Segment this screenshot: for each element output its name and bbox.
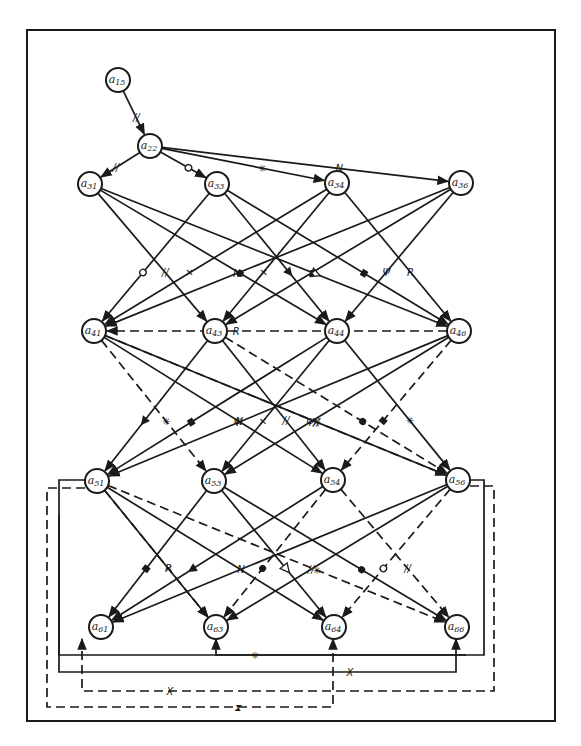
svg-text:✕: ✕ [259, 416, 267, 427]
svg-text://: // [111, 162, 120, 173]
svg-text:Ψ: Ψ [382, 267, 391, 278]
edge-mark [357, 565, 367, 575]
svg-text:N: N [233, 268, 241, 279]
node-a44[interactable]: a44 [325, 319, 349, 343]
node-a61[interactable]: a61 [89, 615, 113, 639]
node-a31[interactable]: a31 [78, 172, 102, 196]
edge-a46-a53 [225, 337, 449, 474]
edge-mark: ✳ [400, 411, 419, 430]
edge-mark: // [398, 558, 418, 578]
node-a41[interactable]: a41 [82, 319, 106, 343]
graph-diagram: ////✳N//✕✕RN⧗ΨN//✳X//✕✳RΨΨRN✳✕////✳XX⧗ a… [0, 0, 581, 746]
loop-edge-mark: ✳ [251, 650, 259, 661]
edge-a43-a54 [222, 340, 324, 469]
loop-edge-mark: X [166, 686, 175, 697]
svg-text:⧗: ⧗ [308, 267, 316, 278]
loop-a56-a61-dashed [82, 486, 494, 691]
edge-mark: ✕ [180, 264, 198, 282]
svg-text:✳: ✳ [162, 416, 170, 427]
svg-text:✳: ✳ [258, 163, 266, 174]
svg-text:✕: ✕ [164, 563, 172, 574]
node-a22[interactable]: a22 [138, 134, 162, 158]
edge-mark [185, 563, 197, 575]
edge-mark [184, 163, 193, 172]
edge-a53-a64 [222, 490, 326, 617]
node-a64[interactable]: a64 [322, 615, 346, 639]
edge-a56-a64 [342, 489, 450, 617]
svg-text:✕: ✕ [185, 267, 193, 278]
loop-a51-a66-solid [59, 515, 456, 672]
svg-text:✳: ✳ [406, 415, 414, 426]
svg-text:N: N [237, 564, 245, 575]
loop-a51-a64-dashed [47, 488, 333, 707]
edge-a44-a51 [108, 337, 327, 474]
edge-mark: // [128, 109, 146, 127]
edge-mark: ✳ [256, 161, 269, 175]
loop-a56-bottom-solid [59, 480, 484, 655]
edge-mark: R [233, 326, 240, 337]
node-a63[interactable]: a63 [204, 615, 228, 639]
node-a53[interactable]: a53 [202, 469, 226, 493]
edge-mark: ✕ [159, 559, 178, 578]
edge-a31-a43 [98, 193, 207, 321]
edge-mark: // [106, 158, 125, 177]
svg-text:R: R [233, 326, 240, 337]
node-a34[interactable]: a34 [325, 171, 349, 195]
node-a56[interactable]: a56 [446, 468, 470, 492]
svg-text:Ψ: Ψ [234, 417, 243, 428]
edge-mark [360, 269, 369, 278]
node-a43[interactable]: a43 [203, 319, 227, 343]
edge-layer [98, 91, 454, 622]
edge-a54-a66 [341, 489, 449, 617]
edge-a22-a31 [101, 152, 140, 177]
edge-a33-a41 [102, 193, 209, 321]
loop-edge-mark: ⧗ [234, 702, 242, 713]
svg-text:✕: ✕ [259, 267, 267, 278]
node-a46[interactable]: a46 [447, 319, 471, 343]
svg-text:R: R [407, 267, 414, 278]
node-a15[interactable]: a15 [106, 68, 130, 92]
edge-a56-a61 [113, 485, 447, 622]
edge-a41-a53 [101, 340, 205, 470]
loop-edge-mark: X [346, 667, 355, 678]
edge-mark: N [232, 561, 250, 579]
svg-text://: // [132, 112, 141, 123]
edge-mark: // [276, 411, 296, 431]
node-a54[interactable]: a54 [321, 468, 345, 492]
edge-mark [358, 417, 368, 427]
node-a51[interactable]: a51 [85, 469, 109, 493]
edge-mark: ✳ [157, 412, 176, 431]
node-a36[interactable]: a36 [449, 171, 473, 195]
edge-a43-a51 [105, 340, 208, 470]
svg-text:Ψ: Ψ [306, 417, 315, 428]
edge-mark [187, 418, 196, 427]
edge-a41-a54 [104, 337, 322, 473]
edge-mark-layer: ////✳N//✕✕RN⧗ΨN//✳X//✕✳RΨΨRN✳✕////✳XX⧗ [106, 109, 419, 713]
svg-text://: // [403, 563, 412, 574]
edge-a34-a41 [105, 189, 327, 324]
edge-a56-a63 [227, 486, 448, 620]
node-a33[interactable]: a33 [205, 172, 229, 196]
node-a66[interactable]: a66 [445, 615, 469, 639]
